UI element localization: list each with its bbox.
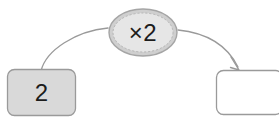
diagram-shapes-layer [0, 0, 279, 119]
diagram-canvas: 2 ×2 [0, 0, 279, 119]
output-box[interactable] [217, 71, 280, 115]
operator-to-output-arrowhead [231, 57, 240, 70]
operator-to-output-curve [178, 30, 238, 67]
input-to-operator-curve [41, 28, 108, 71]
input-box[interactable] [8, 70, 76, 116]
